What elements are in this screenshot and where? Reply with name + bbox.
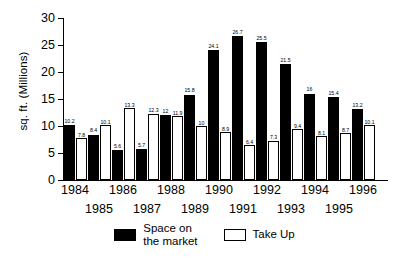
x-axis-label-1989: 1989 <box>181 203 209 216</box>
bar-group: 1211.9 <box>160 18 184 180</box>
bar-group: 5.613.3 <box>112 18 136 180</box>
bar-group: 5.712.3 <box>136 18 160 180</box>
x-axis-line <box>63 180 388 181</box>
bar-value-label: 13.3 <box>124 103 134 108</box>
x-axis-label-1995: 1995 <box>325 203 353 216</box>
bar-value-label: 6.4 <box>246 140 253 145</box>
bar-value-label: 7.3 <box>270 135 277 140</box>
x-axis-label-1990: 1990 <box>205 184 233 197</box>
bar-group: 26.76.4 <box>232 18 256 180</box>
bar-white-1988: 11.9 <box>172 116 183 180</box>
bar-value-label: 12.3 <box>148 108 158 113</box>
bar-black-1990: 24.1 <box>208 50 219 180</box>
bar-group: 25.57.3 <box>256 18 280 180</box>
bar-value-label: 11.9 <box>173 111 183 116</box>
bar-group: 8.410.1 <box>88 18 112 180</box>
x-axis-label-1994: 1994 <box>301 184 329 197</box>
bar-value-label: 21.5 <box>280 58 290 63</box>
y-axis-tick <box>58 180 63 181</box>
bar-value-label: 10.1 <box>364 120 374 125</box>
y-axis-tick-label: 5 <box>48 147 55 160</box>
y-axis-tick-label: 15 <box>41 93 55 106</box>
bar-group: 15.48.7 <box>328 18 352 180</box>
bar-value-label: 10 <box>199 121 205 126</box>
x-axis-label-1986: 1986 <box>109 184 137 197</box>
y-axis-tick <box>58 153 63 154</box>
x-axis-label-1992: 1992 <box>253 184 281 197</box>
x-axis-label-1991: 1991 <box>229 203 257 216</box>
bar-black-1985: 8.4 <box>88 135 99 180</box>
y-axis-tick-label: 20 <box>41 66 55 79</box>
bar-value-label: 15.4 <box>328 91 338 96</box>
bar-white-1984: 7.8 <box>76 138 87 180</box>
bar-black-1992: 25.5 <box>256 42 267 180</box>
x-axis-label-1996: 1996 <box>349 184 377 197</box>
bar-white-1987: 12.3 <box>148 114 159 180</box>
bar-value-label: 10.2 <box>64 119 74 124</box>
bar-white-1994: 8.1 <box>316 136 327 180</box>
bar-value-label: 16 <box>307 87 313 92</box>
legend-label: Take Up <box>253 228 295 241</box>
bar-value-label: 15.8 <box>184 88 194 93</box>
chart-legend: Space on the marketTake Up <box>0 222 409 248</box>
plot-area: 051015202530 10.27.88.410.15.613.35.712.… <box>63 18 388 180</box>
bar-group: 15.810 <box>184 18 208 180</box>
legend-item-2: Take Up <box>224 228 295 241</box>
legend-label: Space on the market <box>143 222 197 248</box>
y-axis-tick-label: 25 <box>41 39 55 52</box>
bar-value-label: 8.9 <box>222 127 229 132</box>
y-axis-tick <box>58 126 63 127</box>
y-axis-title: sq. ft. (Millions) <box>17 21 29 161</box>
y-axis-tick-label: 0 <box>48 174 55 187</box>
bar-value-label: 5.7 <box>138 143 145 148</box>
bar-value-label: 8.7 <box>342 128 349 133</box>
bar-white-1993: 9.4 <box>292 129 303 180</box>
bar-group: 10.27.8 <box>64 18 88 180</box>
legend-item-1: Space on the market <box>114 222 197 248</box>
x-axis-label-1988: 1988 <box>157 184 185 197</box>
bar-group: 21.59.4 <box>280 18 304 180</box>
y-axis-tick <box>58 99 63 100</box>
x-axis-labels: 1984198519861987198819891990199119921993… <box>63 184 388 220</box>
bar-value-label: 25.5 <box>256 36 266 41</box>
bar-white-1992: 7.3 <box>268 141 279 180</box>
bar-white-1985: 10.1 <box>100 125 111 180</box>
bar-white-1990: 8.9 <box>220 132 231 180</box>
bar-black-1986: 5.6 <box>112 150 123 180</box>
y-axis-tick <box>58 45 63 46</box>
bar-white-1989: 10 <box>196 126 207 180</box>
legend-swatch-white <box>224 229 246 241</box>
x-axis-label-1985: 1985 <box>85 203 113 216</box>
bar-value-label: 9.4 <box>294 124 301 129</box>
bar-value-label: 12 <box>163 109 169 114</box>
bar-value-label: 10.1 <box>100 120 110 125</box>
bar-value-label: 8.4 <box>90 128 97 133</box>
x-axis-label-1993: 1993 <box>277 203 305 216</box>
bar-black-1991: 26.7 <box>232 36 243 180</box>
x-axis-label-1987: 1987 <box>133 203 161 216</box>
bar-black-1987: 5.7 <box>136 149 147 180</box>
legend-swatch-black <box>114 229 136 241</box>
y-axis-tick <box>58 72 63 73</box>
bar-white-1996: 10.1 <box>364 125 375 180</box>
bar-value-label: 8.1 <box>318 131 325 136</box>
y-axis-tick <box>58 18 63 19</box>
bar-black-1996: 13.2 <box>352 109 363 180</box>
y-axis-tick-label: 10 <box>41 120 55 133</box>
bar-white-1991: 6.4 <box>244 145 255 180</box>
bar-group: 24.18.9 <box>208 18 232 180</box>
bar-black-1988: 12 <box>160 115 171 180</box>
bar-value-label: 13.2 <box>352 103 362 108</box>
bar-black-1989: 15.8 <box>184 95 195 180</box>
bar-value-label: 5.6 <box>114 144 121 149</box>
y-axis-tick-label: 30 <box>41 12 55 25</box>
bar-value-label: 26.7 <box>232 30 242 35</box>
bar-group: 13.210.1 <box>352 18 376 180</box>
x-axis-label-1984: 1984 <box>61 184 89 197</box>
bar-white-1995: 8.7 <box>340 133 351 180</box>
bar-white-1986: 13.3 <box>124 108 135 180</box>
bar-chart: sq. ft. (Millions) 051015202530 10.27.88… <box>0 0 409 266</box>
bar-value-label: 7.8 <box>78 133 85 138</box>
bar-black-1984: 10.2 <box>64 125 75 180</box>
bar-groups: 10.27.88.410.15.613.35.712.31211.915.810… <box>64 18 376 180</box>
